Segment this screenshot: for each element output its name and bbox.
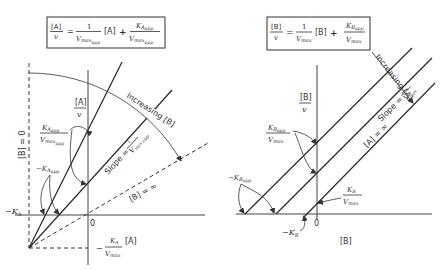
a-infinity-line — [303, 83, 435, 218]
a-infinity-label: [A] = ∞ — [362, 122, 390, 150]
right-x-label: [B] — [340, 237, 352, 246]
eq-equals: = — [286, 27, 294, 37]
ka-vmax-label: − KA Vmax — [96, 237, 122, 258]
left-equation-box: [A] v = 1 Vmaxapp [A] + KAapp Vmaxapp — [47, 17, 165, 48]
left-y-label-den: v — [77, 110, 82, 119]
right-intercept-label: KBapp Vmax — [266, 124, 290, 144]
eq-equals: = — [67, 27, 74, 36]
eq-lhs-num: [B] — [271, 23, 282, 31]
right-intercept-arrow-2 — [295, 133, 316, 173]
eq-k-den: Vmax — [346, 36, 362, 44]
eq-var: [A] — [104, 27, 116, 36]
eq-lhs-den: v — [54, 33, 58, 41]
kb-vmax-label: KB Vmax — [343, 186, 362, 206]
line-low-b — [29, 62, 122, 248]
left-origin-label: 0 — [90, 219, 95, 228]
b-infinity-label: [B] = ∞ — [128, 181, 159, 204]
intercept-arrow-1 — [70, 126, 88, 131]
right-y-label-num: [B] — [300, 93, 312, 102]
svg-text:max app: max app — [133, 134, 150, 152]
eq-coef-den: Vmax — [296, 35, 312, 43]
neg-ka-app-arrow-2 — [50, 175, 59, 214]
svg-text:KB: KB — [346, 186, 356, 194]
line-mid-b-extension — [155, 90, 172, 109]
eq-lhs-num: [A] — [51, 23, 62, 31]
left-x-label: [A] — [125, 237, 137, 246]
increasing-b-label: Increasing [B] — [125, 91, 177, 129]
eq-var: [B] — [315, 28, 327, 37]
left-y-label-num: [A] — [75, 98, 87, 107]
left-panel: [A] v = 1 Vmaxapp [A] + KAapp Vmaxapp [A… — [5, 17, 208, 265]
eq-coef-num: 1 — [87, 23, 91, 31]
eq-plus: + — [330, 28, 338, 38]
neg-ka-app-label: −KAapp — [36, 165, 59, 174]
eq-plus: + — [119, 27, 127, 37]
left-slope-label: Slope = 1 V max app — [100, 126, 150, 178]
svg-text:−: − — [96, 244, 103, 253]
neg-kb-app-arrow-2 — [241, 184, 274, 213]
neg-ka-label: −KA — [5, 207, 22, 217]
right-equation-box: [B] v = 1 Vmax [B] + KBapp Vmax — [267, 17, 370, 50]
svg-text:−KAapp: −KAapp — [36, 165, 59, 174]
right-y-label-den: v — [302, 105, 307, 114]
neg-kb-app-arrow-1 — [239, 184, 244, 213]
neg-kb-app-label: −KBapp — [228, 174, 251, 183]
neg-kb-label: −KB — [282, 228, 299, 238]
eq-coef-num: 1 — [302, 23, 306, 31]
right-panel: [B] v = 1 Vmax [B] + KBapp Vmax Increasi… — [228, 17, 435, 246]
svg-text:KAapp: KAapp — [41, 124, 59, 133]
svg-text:Vmax: Vmax — [268, 136, 284, 144]
svg-text:Vmax: Vmax — [343, 198, 359, 206]
right-slope-label: Slope = 1 V max — [373, 80, 418, 125]
b-zero-label: [B] = 0 — [18, 130, 27, 159]
eq-lhs-den: v — [274, 34, 278, 42]
svg-text:KBapp: KBapp — [267, 124, 285, 133]
right-origin-label: 0 — [314, 219, 319, 228]
svg-text:KA: KA — [109, 237, 119, 245]
lineweaver-burk-diagram: [A] v = 1 Vmaxapp [A] + KAapp Vmaxapp [A… — [0, 0, 443, 271]
left-intercept-label: KAapp Vmaxapp — [40, 124, 68, 146]
neg-kb-arrow — [300, 216, 305, 231]
svg-text:Vmaxapp: Vmaxapp — [40, 136, 64, 146]
svg-text:Vmax: Vmax — [105, 250, 121, 258]
